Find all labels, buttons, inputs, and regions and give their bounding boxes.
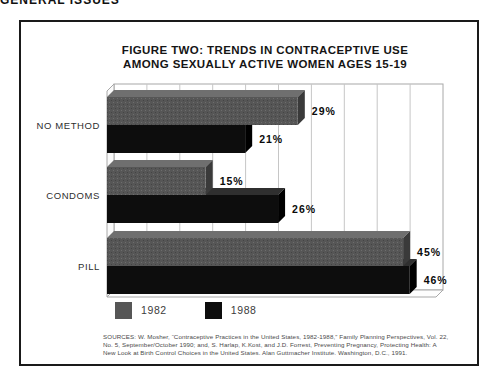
section-header: GENERAL ISSUES (0, 0, 120, 7)
bar-1988-condoms (107, 195, 278, 223)
bar-1982-condoms (107, 167, 206, 195)
value-label: 15% (220, 175, 244, 187)
bar-1988-pill (107, 266, 410, 294)
source-line: No. 5, September/October 1990; and, S. H… (103, 341, 469, 349)
bar-1982-pill (107, 238, 403, 266)
source-note: SOURCES: W. Mosher, “Contraceptive Pract… (103, 333, 469, 357)
bar-top-face (107, 90, 305, 97)
bar-1988-no-method (107, 125, 245, 153)
category-label: CONDOMS (46, 190, 100, 201)
value-label: 21% (259, 133, 283, 145)
category-label: NO METHOD (37, 120, 100, 131)
legend-swatch-1982 (115, 302, 132, 319)
bar-top-face (107, 160, 213, 167)
bar-1982-no-method (107, 97, 298, 125)
source-line: SOURCES: W. Mosher, “Contraceptive Pract… (103, 333, 469, 341)
category-label: PILL (78, 261, 100, 272)
value-label: 26% (292, 203, 316, 215)
value-label: 29% (312, 105, 336, 117)
value-label: 45% (417, 246, 441, 258)
legend-label-1982: 1982 (141, 304, 167, 316)
legend-swatch-1988 (205, 302, 222, 319)
page-root: { "page": { "header": "GENERAL ISSUES" }… (0, 0, 498, 387)
legend-item-1982: 1982 (115, 302, 167, 319)
chart-legend: 1982 1988 (115, 301, 295, 319)
figure-box: FIGURE TWO: TRENDS IN CONTRACEPTIVE USE … (19, 20, 479, 366)
legend-label-1988: 1988 (231, 304, 257, 316)
source-line: New Look at Birth Control Choices in the… (103, 349, 469, 357)
legend-item-1988: 1988 (205, 302, 257, 319)
bar-top-face (107, 231, 410, 238)
value-label: 46% (424, 274, 448, 286)
